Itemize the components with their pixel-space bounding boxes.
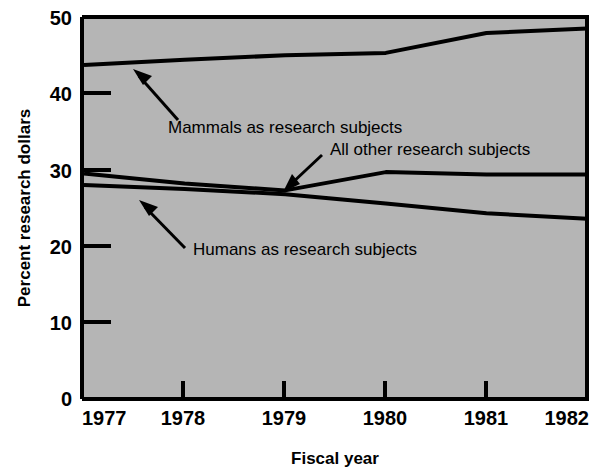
y-tick-label-30: 30	[50, 160, 72, 182]
annotation-label-humans: Humans as research subjects	[193, 240, 417, 259]
chart-figure: 0 10 20 30 40 50 1977 1978 1979 1980 198…	[0, 0, 607, 475]
y-tick-label-20: 20	[50, 236, 72, 258]
chart-svg: 0 10 20 30 40 50 1977 1978 1979 1980 198…	[0, 0, 607, 475]
y-tick-label-40: 40	[50, 83, 72, 105]
x-tick-label-1981: 1981	[464, 407, 509, 429]
y-tick-label-0: 0	[61, 388, 72, 410]
annotation-label-mammals: Mammals as research subjects	[168, 118, 402, 137]
x-tick-label-1980: 1980	[363, 407, 408, 429]
x-tick-label-1977: 1977	[82, 407, 127, 429]
plot-area-background	[82, 17, 587, 399]
x-tick-label-1979: 1979	[262, 407, 307, 429]
y-tick-label-10: 10	[50, 312, 72, 334]
x-axis-title: Fiscal year	[291, 449, 379, 468]
y-axis-title: Percent research dollars	[15, 109, 34, 307]
annotation-label-all-other: All other research subjects	[330, 140, 530, 159]
y-tick-label-50: 50	[50, 7, 72, 29]
x-tick-label-1978: 1978	[161, 407, 206, 429]
x-tick-label-1982: 1982	[545, 407, 590, 429]
